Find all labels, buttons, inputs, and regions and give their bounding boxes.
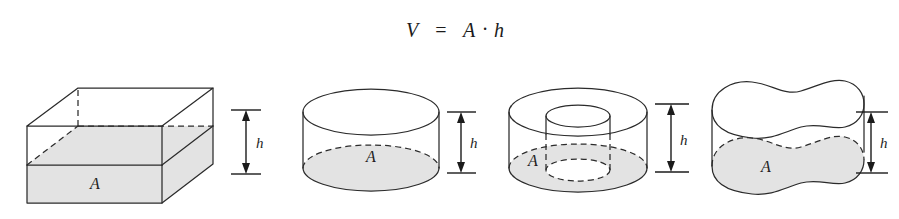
blob-height-label: h: [880, 135, 888, 151]
hollow-cylinder-area-label: A: [527, 152, 538, 169]
cylinder-height-dimension: h: [447, 112, 478, 173]
shape-hollow-cylinder: A: [509, 88, 647, 192]
figure-canvas: V = A · h A: [0, 0, 899, 219]
prism-top-face: [27, 88, 213, 126]
prism-dim-arrowhead-up: [242, 110, 250, 121]
shape-cylinder: A: [303, 89, 439, 191]
formula-area-symbol: A: [461, 19, 476, 41]
blob-dim-arrowhead-down: [867, 162, 875, 173]
shape-irregular-prism: A: [712, 80, 864, 194]
prism-height-label: h: [256, 135, 264, 151]
formula-group: V = A · h: [406, 18, 504, 41]
hollow-cylinder-dim-arrowhead-up: [667, 104, 675, 115]
volume-figure: V = A · h A: [0, 0, 899, 219]
formula-volume-symbol: V: [406, 19, 421, 41]
prism-dim-arrowhead-down: [242, 163, 250, 174]
cylinder-height-label: h: [470, 135, 478, 151]
formula-dot-operator: ·: [482, 18, 489, 40]
hollow-cylinder-height-label: h: [680, 132, 688, 148]
cylinder-area-label: A: [365, 148, 376, 165]
prism-area-label: A: [89, 175, 100, 192]
hollow-cylinder-dim-arrowhead-down: [667, 161, 675, 172]
prism-height-dimension: h: [231, 110, 264, 174]
blob-dim-arrowhead-up: [867, 112, 875, 123]
formula-height-symbol: h: [494, 19, 504, 41]
cylinder-dim-arrowhead-down: [457, 162, 465, 173]
shape-rectangular-prism: A: [27, 88, 213, 203]
formula-equals-sign: =: [435, 19, 446, 41]
hollow-cylinder-height-dimension: h: [655, 104, 689, 172]
cylinder-dim-arrowhead-up: [457, 112, 465, 123]
blob-area-label: A: [760, 158, 771, 175]
